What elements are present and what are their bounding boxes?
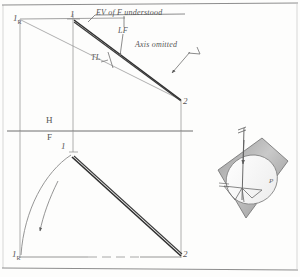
drawing-sheet: 1R 1 2 EV of F understood LF TL Axis omi… <box>0 0 300 277</box>
line-1-2-front-heavy-shadow <box>74 156 182 254</box>
tl-tick <box>108 52 113 68</box>
pictorial-plane-label: P <box>269 178 273 185</box>
pictorial-group <box>217 127 288 218</box>
pictorial-axis-tick <box>238 127 246 133</box>
front-view-point-1-label: 1 <box>61 142 66 151</box>
lf-note: LF <box>118 27 128 35</box>
revolution-arc <box>21 155 71 255</box>
top-view-group <box>20 14 181 131</box>
axis-omitted-note: Axis omitted <box>135 41 177 49</box>
line-1-2-front-heavy <box>72 157 181 256</box>
tl-note: TL <box>91 54 100 62</box>
top-view-point-1R-label: 1R <box>13 14 22 25</box>
fold-line-label-h: H <box>46 116 53 125</box>
ev-of-f-note: EV of F understood <box>96 9 162 17</box>
axis-note-arrow <box>172 52 190 73</box>
front-view-point-1R-label: 1R <box>12 250 21 261</box>
revolution-direction-arrow <box>40 181 58 231</box>
front-view-group <box>20 131 182 258</box>
lf-leader <box>120 34 123 56</box>
front-view-point-2-label: 2 <box>183 250 188 259</box>
top-view-point-2-label: 2 <box>183 97 188 106</box>
axis-note-leader <box>188 47 200 54</box>
fold-line-label-f: F <box>47 133 52 142</box>
top-view-point-1-label: 1 <box>70 10 75 19</box>
construction-line-1R-2 <box>21 20 181 100</box>
